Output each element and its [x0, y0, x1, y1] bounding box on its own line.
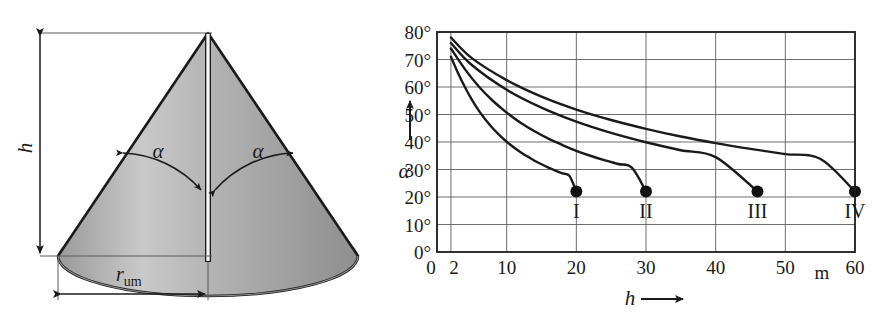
- chart-x-tick-labels: 02102030405060: [426, 257, 864, 278]
- x-tick-label: 10: [497, 257, 516, 278]
- x-tick-label: 40: [706, 257, 725, 278]
- curve-label-I: I: [573, 200, 580, 222]
- figure-svg: h rum α α IIIIIIIV 0°10°20°30°40°50°60°7…: [0, 0, 891, 323]
- x-tick-label: 20: [567, 257, 586, 278]
- alpha-vs-h-chart: IIIIIIIV 0°10°20°30°40°50°60°70°80° 0210…: [398, 22, 866, 310]
- x-axis-unit: m: [815, 262, 830, 283]
- radius-label-main: r: [116, 263, 124, 285]
- endpoint-marker-I: [570, 186, 582, 198]
- y-tick-label: 20°: [404, 187, 431, 208]
- chart-y-tick-labels: 0°10°20°30°40°50°60°70°80°: [404, 22, 431, 263]
- x-axis-label: h: [625, 286, 636, 310]
- y-tick-label: 10°: [404, 215, 431, 236]
- endpoint-marker-II: [640, 186, 652, 198]
- y-tick-label: 40°: [404, 132, 431, 153]
- y-axis-label: α: [398, 159, 410, 183]
- height-label: h: [13, 143, 37, 154]
- y-tick-label: 60°: [404, 77, 431, 98]
- figure-root: h rum α α IIIIIIIV 0°10°20°30°40°50°60°7…: [0, 0, 891, 323]
- x-tick-label: 0: [426, 257, 436, 278]
- y-tick-label: 70°: [404, 50, 431, 71]
- radius-label-subscript: um: [124, 274, 142, 289]
- angle-label-left: α: [152, 139, 164, 163]
- curve-label-III: III: [747, 200, 767, 222]
- y-tick-label: 50°: [404, 105, 431, 126]
- x-tick-label: 2: [449, 257, 459, 278]
- curve-II: [451, 49, 646, 192]
- x-tick-label: 30: [637, 257, 656, 278]
- x-tick-label: 60: [846, 257, 865, 278]
- x-tick-label: 50: [776, 257, 795, 278]
- angle-label-right: α: [252, 139, 264, 163]
- y-tick-label: 80°: [404, 22, 431, 43]
- curve-label-II: II: [639, 200, 652, 222]
- chart-curve-labels: IIIIIIIV: [573, 200, 866, 222]
- endpoint-marker-III: [751, 186, 763, 198]
- cone-diagram: h rum α α: [13, 33, 358, 300]
